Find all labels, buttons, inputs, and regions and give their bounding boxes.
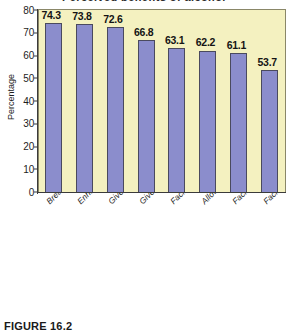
bar-item — [107, 10, 124, 192]
bar-item — [45, 10, 62, 192]
y-axis-tick: 30 — [23, 118, 38, 130]
y-axis-tick: 80 — [23, 4, 38, 16]
bar-value-label: 53.7 — [258, 56, 277, 68]
y-axis-tick: 10 — [23, 163, 38, 175]
bar-value-label: 72.6 — [103, 13, 122, 25]
clipped-chart-title: Perceived benefits of alcohol — [0, 0, 297, 7]
bar-value-label: 63.1 — [165, 34, 184, 46]
y-axis-tick: 40 — [23, 95, 38, 107]
figure-caption-text: FIGURE 16.2 — [4, 322, 72, 332]
bar-item — [76, 10, 93, 192]
y-axis-tick: 60 — [23, 50, 38, 62]
bar-item — [230, 10, 247, 192]
x-axis-category-label: Facilities sexual opportunities — [261, 193, 297, 206]
bar-series: 74.373.872.666.863.162.261.153.7 — [38, 10, 285, 192]
figure-caption: FIGURE 16.2 — [0, 322, 297, 336]
y-axis-tick: 50 — [23, 72, 38, 84]
bar — [230, 53, 247, 192]
bar — [45, 23, 62, 192]
bar-value-label: 61.1 — [227, 39, 246, 51]
bar — [138, 40, 155, 192]
x-axis-category-label: Gives people something talk about — [137, 193, 236, 206]
bar — [261, 70, 278, 192]
bar — [107, 27, 124, 192]
y-axis-tick: 70 — [23, 27, 38, 39]
bar-value-label: 74.3 — [41, 9, 60, 21]
clipped-chart-title-text: Perceived benefits of alcohol — [62, 0, 226, 3]
figure-container: Perceived benefits of alcohol 0102030405… — [0, 0, 297, 336]
bar-value-label: 73.8 — [72, 10, 91, 22]
bar-item — [261, 10, 278, 192]
bar — [76, 24, 93, 192]
y-axis-title: Percentage — [6, 57, 16, 137]
bar-value-label: 62.2 — [196, 36, 215, 48]
y-axis-tick: 20 — [23, 141, 38, 153]
x-axis-category-labels: Breaks the iceEnhances social activityGi… — [0, 193, 297, 311]
bar — [199, 51, 216, 193]
bar — [168, 48, 185, 192]
bar-value-label: 66.8 — [134, 26, 153, 38]
